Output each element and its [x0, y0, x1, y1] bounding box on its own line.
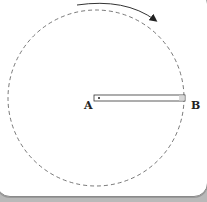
- pivot-point: [98, 97, 100, 99]
- rotating-rod-diagram: A B: [0, 0, 207, 202]
- label-b: B: [191, 99, 200, 112]
- rod: [94, 95, 185, 101]
- rod-end-shading: [179, 95, 185, 100]
- rotation-arrow: [77, 3, 155, 20]
- label-a: A: [83, 99, 93, 112]
